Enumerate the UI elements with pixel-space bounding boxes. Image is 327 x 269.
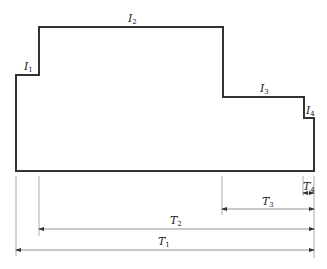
label-i2: I2 xyxy=(127,12,137,26)
step-profile xyxy=(16,27,314,171)
label-i3: I3 xyxy=(259,82,269,96)
label-t3: T3 xyxy=(262,195,274,209)
label-t1: T1 xyxy=(158,235,170,249)
label-t2: T2 xyxy=(170,214,182,228)
label-i1: I1 xyxy=(23,60,33,74)
profile-diagram: I1 I2 I3 I4 T4 T3 T2 T1 xyxy=(0,0,327,269)
label-i4: I4 xyxy=(305,104,315,118)
label-t4: T4 xyxy=(303,180,315,194)
